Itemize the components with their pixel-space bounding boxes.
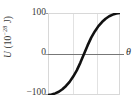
y-tick-label-0: 0 <box>18 47 46 57</box>
data-curve <box>48 13 120 95</box>
chart-figure: U (10−28 J) 100 0 −100 θ <box>0 0 139 106</box>
y-axis-label: U (10−28 J) <box>3 9 13 65</box>
y-tick-label-group: 100 0 −100 <box>14 0 46 106</box>
y-tick-label-100: 100 <box>18 7 46 17</box>
data-curve-path <box>48 13 120 95</box>
y-axis-label-exponent: −28 <box>1 26 8 36</box>
y-tick-label-minus100: −100 <box>18 87 46 97</box>
y-axis-label-symbol: U <box>3 51 13 58</box>
y-axis-label-open: (10 <box>3 36 13 51</box>
y-axis-label-close: J) <box>3 16 13 26</box>
x-axis-label: θ <box>126 46 131 57</box>
